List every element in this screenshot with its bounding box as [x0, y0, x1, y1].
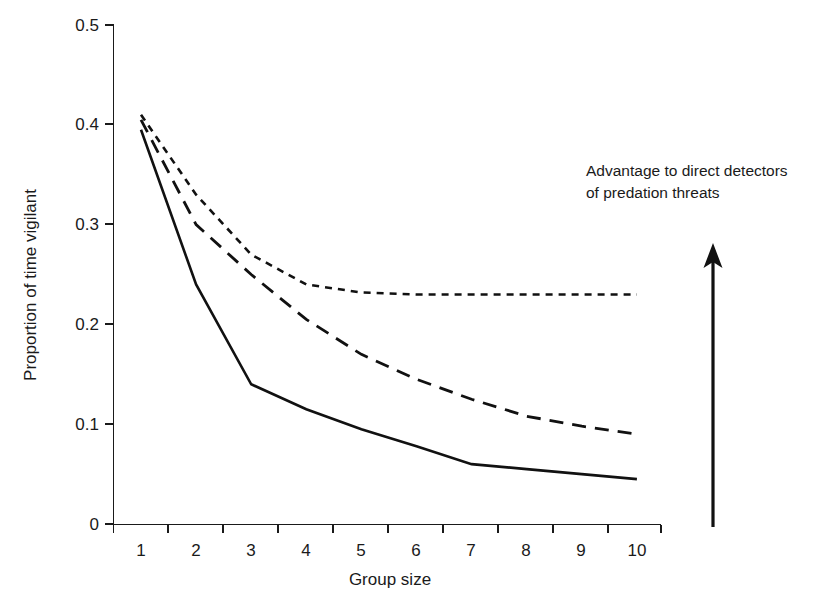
data-series-group	[141, 115, 637, 479]
x-tick-label-1: 1	[136, 541, 145, 560]
chart-canvas: 0.5 0.4 0.3 0.2 0.1 0 1 2 3 4 5	[0, 0, 828, 602]
x-axis-title: Group size	[349, 570, 431, 589]
x-tick-label-3: 3	[246, 541, 255, 560]
x-tick-label-7: 7	[466, 541, 475, 560]
y-tick-label-5: 0.5	[75, 16, 99, 35]
annotation-line-2: of predation threats	[586, 184, 720, 201]
y-tick-label-0: 0	[90, 515, 99, 534]
y-tick-label-3: 0.3	[75, 215, 99, 234]
advantage-annotation: Advantage to direct detectors of predati…	[586, 162, 788, 201]
y-axis-ticks	[105, 25, 114, 524]
x-tick-label-2: 2	[191, 541, 200, 560]
y-tick-label-1: 0.1	[75, 415, 99, 434]
upward-arrow-icon	[704, 243, 723, 527]
x-tick-label-8: 8	[521, 541, 530, 560]
y-axis-tick-labels: 0.5 0.4 0.3 0.2 0.1 0	[75, 16, 99, 534]
y-tick-label-4: 0.4	[75, 115, 99, 134]
x-tick-label-9: 9	[576, 541, 585, 560]
y-tick-label-2: 0.2	[75, 315, 99, 334]
series-solid-line	[141, 130, 637, 479]
annotation-line-1: Advantage to direct detectors	[586, 162, 788, 179]
x-axis-tick-labels: 1 2 3 4 5 6 7 8 9 10	[136, 541, 646, 560]
series-dashed-line	[141, 120, 637, 434]
x-tick-label-6: 6	[411, 541, 420, 560]
y-axis-title: Proportion of time vigilant	[21, 189, 40, 381]
chart-figure: 0.5 0.4 0.3 0.2 0.1 0 1 2 3 4 5	[0, 0, 828, 602]
series-dotted-line	[141, 115, 637, 295]
x-axis-ticks	[114, 525, 662, 534]
x-tick-label-5: 5	[356, 541, 365, 560]
x-tick-label-10: 10	[628, 541, 647, 560]
x-tick-label-4: 4	[301, 541, 310, 560]
